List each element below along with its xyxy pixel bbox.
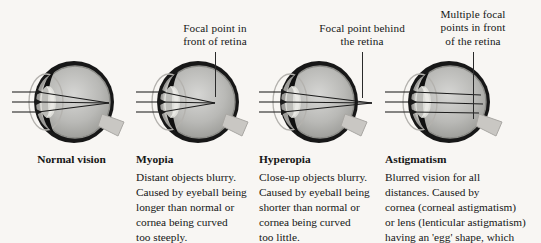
hyperopia-description: Close-up objects blurry. Caused by eyeba… bbox=[259, 170, 381, 243]
column-hyperopia: Hyperopia Close-up objects blurry. Cause… bbox=[259, 152, 381, 243]
myopia-callout-label: Focal point in front of retina bbox=[147, 22, 283, 49]
column-astigmatism: Astigmatism Blurred vision for all dista… bbox=[385, 152, 541, 243]
eye-myopia-diagram bbox=[136, 56, 254, 148]
myopia-heading: Myopia bbox=[136, 152, 254, 168]
eye-astigmatism-diagram bbox=[385, 56, 509, 148]
astigmatism-heading: Astigmatism bbox=[385, 152, 541, 168]
normal-vision-heading: Normal vision bbox=[24, 152, 119, 168]
eye-conditions-figure: Focal point in front of retina Focal poi… bbox=[0, 0, 541, 243]
myopia-description: Distant objects blurry. Caused by eyebal… bbox=[136, 170, 254, 243]
astigmatism-description: Blurred vision for all distances. Caused… bbox=[385, 170, 541, 243]
myopia-callout-leader-line bbox=[215, 52, 216, 97]
astigmatism-callout-leader-line bbox=[473, 52, 474, 119]
eye-hyperopia-diagram bbox=[259, 56, 377, 148]
hyperopia-callout-leader-line bbox=[362, 52, 363, 98]
column-myopia: Myopia Distant objects blurry. Caused by… bbox=[136, 152, 254, 243]
hyperopia-heading: Hyperopia bbox=[259, 152, 381, 168]
astigmatism-callout-label: Multiple focal points in front of the re… bbox=[412, 8, 534, 48]
eye-normal-vision-diagram bbox=[12, 56, 130, 148]
column-normal-vision: Normal vision bbox=[24, 152, 119, 170]
